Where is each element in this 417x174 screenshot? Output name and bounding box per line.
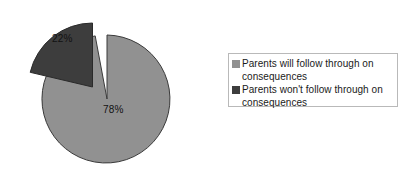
- legend-item-parents-wont-follow-through[interactable]: Parents won't follow through on conseque…: [232, 83, 395, 109]
- chart-legend: Parents will follow through on consequen…: [228, 53, 398, 107]
- legend-item-parents-will-follow-through[interactable]: Parents will follow through on consequen…: [232, 57, 395, 83]
- legend-item-label: Parents won't follow through on conseque…: [242, 83, 394, 109]
- legend-swatch-icon-light: [232, 60, 240, 68]
- legend-item-label: Parents will follow through on consequen…: [242, 57, 394, 83]
- pie-slice-parents-wont-follow-through[interactable]: [30, 23, 92, 87]
- legend-swatch-icon-dark: [232, 86, 240, 94]
